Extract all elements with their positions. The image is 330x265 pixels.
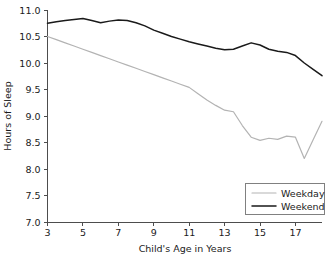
x-tick-label: 11 bbox=[183, 227, 195, 238]
legend-label-weekend: Weekend bbox=[281, 201, 325, 212]
x-tick-label: 17 bbox=[289, 227, 301, 238]
legend: Weekday Weekend bbox=[246, 184, 325, 215]
x-axis-tick-group: 357911131517 bbox=[44, 222, 301, 238]
x-axis-title: Child's Age in Years bbox=[139, 243, 232, 254]
series-line-weekday bbox=[48, 37, 323, 159]
y-tick-label: 10.0 bbox=[19, 58, 40, 69]
legend-label-weekday: Weekday bbox=[281, 188, 325, 199]
sleep-hours-line-chart: 7.07.58.08.59.09.510.010.511.0 357911131… bbox=[0, 0, 330, 265]
chart-canvas: 7.07.58.08.59.09.510.010.511.0 357911131… bbox=[0, 0, 330, 265]
x-tick-label: 15 bbox=[254, 227, 266, 238]
series-line-weekend bbox=[48, 18, 323, 75]
y-axis-title: Hours of Sleep bbox=[2, 81, 13, 150]
y-axis-tick-group: 7.07.58.08.59.09.510.010.511.0 bbox=[19, 5, 47, 228]
y-tick-label: 7.0 bbox=[25, 217, 40, 228]
series-group bbox=[48, 18, 323, 158]
y-tick-label: 8.5 bbox=[25, 137, 40, 148]
x-tick-label: 3 bbox=[44, 227, 50, 238]
x-tick-label: 13 bbox=[219, 227, 231, 238]
y-tick-label: 11.0 bbox=[19, 5, 40, 16]
x-tick-label: 7 bbox=[115, 227, 121, 238]
y-tick-label: 9.5 bbox=[25, 84, 40, 95]
y-tick-label: 9.0 bbox=[25, 111, 40, 122]
y-tick-label: 8.0 bbox=[25, 164, 40, 175]
y-tick-label: 10.5 bbox=[19, 31, 40, 42]
x-tick-label: 9 bbox=[151, 227, 157, 238]
x-tick-label: 5 bbox=[80, 227, 86, 238]
y-tick-label: 7.5 bbox=[25, 190, 40, 201]
